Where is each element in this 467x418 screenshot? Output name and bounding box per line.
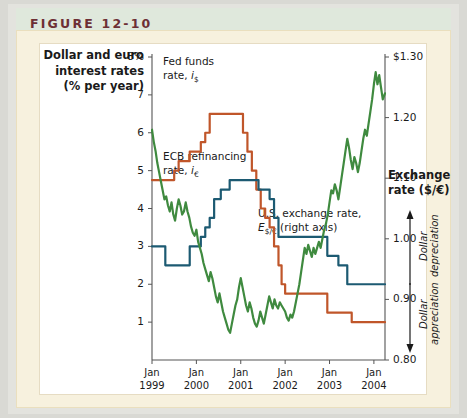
x-axis-tick: Jan2000: [173, 367, 219, 392]
x-axis-tick: Jan1999: [129, 367, 175, 392]
right-axis-tick: 1.10: [393, 171, 433, 183]
left-axis-tick: 1: [118, 315, 144, 327]
left-axis-tick: 8%: [118, 50, 144, 62]
x-axis-tick: Jan2003: [307, 367, 353, 392]
annotation-dollar-depreciation: Dollar depreciation: [418, 212, 440, 280]
x-axis-tick: Jan2004: [351, 367, 397, 392]
right-axis-tick: 0.80: [393, 353, 433, 365]
series-label-ecb-rate: ECB refinancingrate, i€: [163, 150, 246, 181]
series-label-fed-funds: Fed fundsrate, i$: [163, 55, 214, 86]
x-axis-tick: Jan2002: [262, 367, 308, 392]
left-axis-tick: 6: [118, 126, 144, 138]
left-axis-tick: 7: [118, 88, 144, 100]
plot-card: [39, 43, 427, 395]
left-axis-tick: 5: [118, 164, 144, 176]
right-axis-tick: 1.20: [393, 111, 433, 123]
right-axis-tick: $1.30: [393, 50, 433, 62]
figure-header-band: FIGURE 12-10: [16, 8, 451, 30]
x-axis-tick: Jan2001: [218, 367, 264, 392]
figure-number-label: FIGURE 12-10: [30, 16, 153, 31]
series-label-exchange-rate: U.S. exchange rate,E$/€ (right axis): [258, 207, 361, 238]
annotation-dollar-appreciation: Dollar appreciation: [418, 278, 440, 350]
left-axis-tick: 3: [118, 239, 144, 251]
left-axis-tick: 4: [118, 202, 144, 214]
left-axis-tick: 2: [118, 277, 144, 289]
